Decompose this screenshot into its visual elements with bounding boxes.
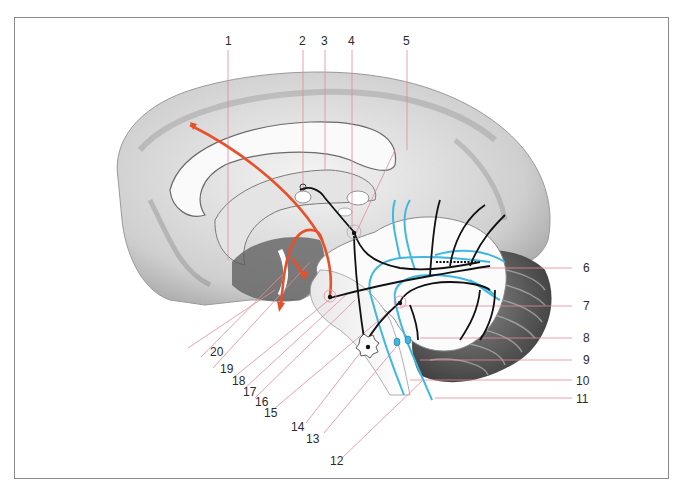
label-8: 8 (583, 332, 590, 344)
label-1: 1 (225, 35, 232, 47)
arrow-head-icon (277, 301, 285, 312)
label-12: 12 (330, 455, 343, 467)
label-6: 6 (583, 262, 590, 274)
label-4: 4 (348, 35, 355, 47)
label-10: 10 (576, 375, 589, 387)
label-9: 9 (583, 354, 590, 366)
label-5: 5 (403, 35, 410, 47)
label-14: 14 (291, 421, 304, 433)
label-7: 7 (583, 300, 590, 312)
label-2: 2 (299, 35, 306, 47)
label-3: 3 (321, 35, 328, 47)
label-13: 13 (306, 433, 319, 445)
label-19: 19 (220, 363, 233, 375)
label-11: 11 (576, 393, 588, 405)
label-20: 20 (210, 346, 223, 358)
label-17: 17 (243, 386, 256, 398)
label-16: 16 (255, 396, 268, 408)
brain-sagittal-illustration (0, 0, 678, 495)
label-18: 18 (232, 375, 245, 387)
